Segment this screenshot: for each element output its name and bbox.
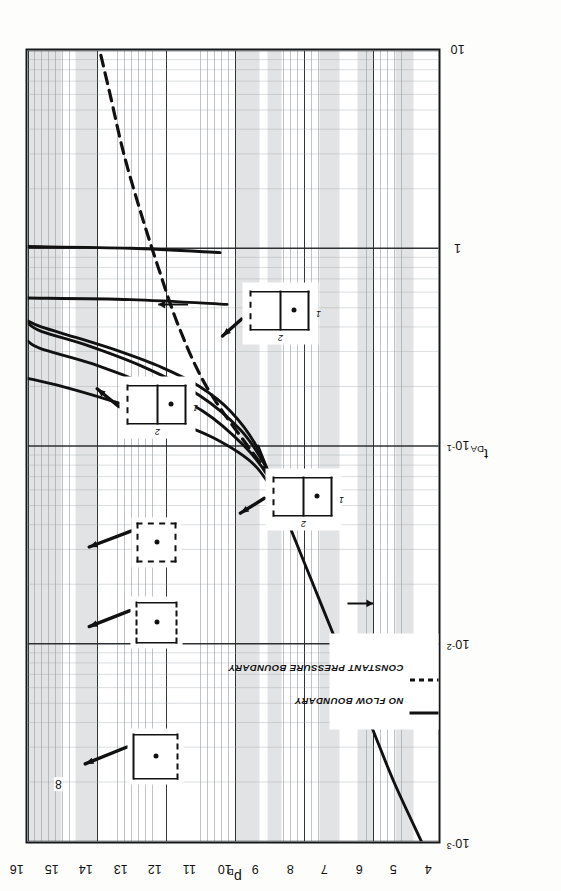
- y-tick-label: 8: [286, 861, 316, 875]
- x-axis-label-text: t: [483, 445, 487, 461]
- chart-stage: 2 1 2 1 2 1 8 NO FLOW BOUNDARY CONSTANT …: [0, 0, 561, 891]
- plot-area: 2 1 2 1 2 1 8 NO FLOW BOUNDARY CONSTANT …: [25, 48, 440, 843]
- shape-icon-square-3solid-1dashed: [127, 728, 183, 784]
- well-dot: [314, 494, 319, 499]
- x-axis-label: tDA: [470, 444, 487, 462]
- icon-midline: [156, 384, 158, 424]
- y-tick-label: 12: [147, 861, 177, 875]
- shape-icon-rect-2x1-c: 2 1: [242, 282, 318, 344]
- shape-icon-square-2solid-2dashed: [130, 596, 182, 648]
- x-tick-label: 10-1: [446, 438, 470, 453]
- well-dot: [154, 540, 159, 545]
- y-axis-label: pD: [226, 867, 241, 885]
- icon-label-height: 2: [300, 518, 305, 528]
- legend-label-no-flow: NO FLOW BOUNDARY: [294, 695, 403, 706]
- y-tick-label: 11: [182, 861, 212, 875]
- well-dot: [153, 754, 158, 759]
- x-axis-label-sub: DA: [470, 444, 483, 455]
- y-tick-label: 6: [355, 861, 385, 875]
- y-tick-label: 9: [251, 861, 281, 875]
- icon-label-height: 2: [277, 332, 282, 342]
- y-tick-label: 5: [389, 861, 419, 875]
- icon-label-width: 1: [338, 494, 343, 504]
- icon-label-height: 2: [154, 426, 159, 436]
- y-tick-label: 4: [424, 861, 454, 875]
- x-tick-label: 10-3: [446, 835, 470, 850]
- y-tick-label: 7: [320, 861, 350, 875]
- shape-icon-square-all-dashed: [131, 517, 181, 567]
- y-axis-label-sub: D: [226, 867, 233, 878]
- icon-midline: [302, 476, 304, 516]
- shape-icon-rect-2x1-b: 2 1: [265, 468, 341, 530]
- well-dot: [154, 620, 159, 625]
- chart-page: 2 1 2 1 2 1 8 NO FLOW BOUNDARY CONSTANT …: [0, 0, 561, 891]
- curve-number-tag-8: 8: [54, 777, 63, 791]
- shape-icon-rect-2x1-a: 2 1: [119, 376, 195, 438]
- x-tick-label: 1: [445, 240, 469, 254]
- legend-swatch-dashed: [409, 678, 440, 681]
- well-dot: [291, 308, 296, 313]
- y-tick-label: 14: [78, 861, 108, 875]
- legend-swatch-solid: [409, 711, 440, 714]
- icon-midline: [279, 290, 281, 330]
- x-tick-label: 10-2: [446, 637, 470, 652]
- chart-legend: NO FLOW BOUNDARY CONSTANT PRESSURE BOUND…: [329, 633, 440, 729]
- icon-label-width: 1: [192, 402, 197, 412]
- y-tick-label: 15: [44, 861, 74, 875]
- y-tick-label: 16: [9, 861, 39, 875]
- y-axis-label-text: p: [233, 868, 241, 884]
- well-dot: [168, 402, 173, 407]
- y-tick-label: 13: [113, 861, 143, 875]
- icon-label-width: 1: [315, 308, 320, 318]
- x-tick-label: 10: [445, 41, 469, 55]
- legend-label-constant-pressure: CONSTANT PRESSURE BOUNDARY: [228, 662, 403, 673]
